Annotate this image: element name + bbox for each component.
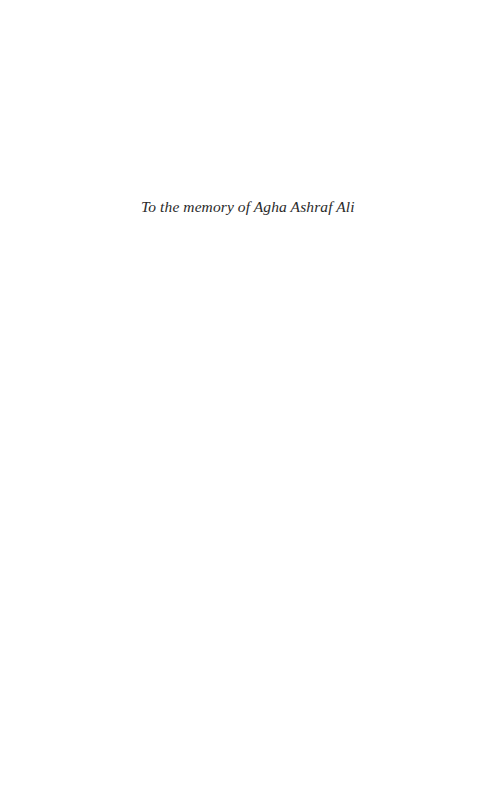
dedication-text: To the memory of Agha Ashraf Ali	[141, 198, 355, 216]
document-page: To the memory of Agha Ashraf Ali	[0, 0, 482, 812]
